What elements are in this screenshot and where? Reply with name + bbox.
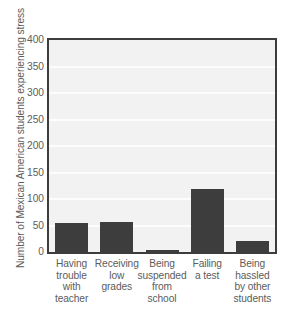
- y-axis-tick-label: 200: [20, 141, 44, 151]
- bar-series: [49, 40, 275, 252]
- plot-area: [47, 38, 277, 254]
- x-axis-category-label-line: teacher: [45, 293, 98, 305]
- x-axis-category-label-line: school: [135, 293, 188, 305]
- x-axis-category-label-line: by other: [226, 281, 279, 293]
- x-axis-category-label-line: hassled: [226, 270, 279, 282]
- bar: [191, 189, 224, 252]
- bar: [55, 223, 88, 252]
- bar: [100, 222, 133, 252]
- y-axis-tick-label: 350: [20, 62, 44, 72]
- y-axis-tick-label: 50: [20, 221, 44, 231]
- y-axis-tick-label: 0: [20, 247, 44, 257]
- x-axis-category-label: Beinghassledby otherstudents: [226, 258, 279, 304]
- x-axis-category-label-line: from: [135, 281, 188, 293]
- y-axis-tick-label: 400: [20, 35, 44, 45]
- y-axis-tick-labels: 400350300250200150100500: [20, 32, 44, 254]
- x-axis-category-labels: HavingtroublewithteacherReceivinglowgrad…: [47, 258, 277, 322]
- x-axis-category-label-line: Being: [226, 258, 279, 270]
- bar: [236, 241, 269, 252]
- y-axis-title-container: Number of Mexican American students expe…: [0, 0, 22, 275]
- y-axis-tick-label: 100: [20, 194, 44, 204]
- bar-chart: Number of Mexican American students expe…: [0, 0, 292, 325]
- y-axis-tick-label: 300: [20, 88, 44, 98]
- y-axis-tick-label: 150: [20, 168, 44, 178]
- x-axis-category-label-line: students: [226, 293, 279, 305]
- bar: [146, 250, 179, 252]
- y-axis-tick-label: 250: [20, 115, 44, 125]
